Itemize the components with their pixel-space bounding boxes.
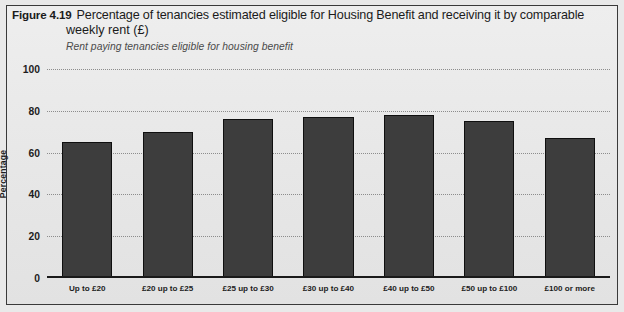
x-axis-tick-label: £100 or more bbox=[545, 284, 595, 293]
figure-number: Figure 4.19 bbox=[12, 8, 72, 21]
bar-group: £40 up to £50 bbox=[369, 69, 449, 278]
bar[interactable] bbox=[464, 121, 514, 278]
figure-title-line-2: weekly rent (£) bbox=[12, 23, 614, 38]
x-axis-tick-label: Up to £20 bbox=[69, 284, 105, 293]
x-axis-tick-label: £20 up to £25 bbox=[142, 284, 193, 293]
chart-bars: Up to £20£20 up to £25£25 up to £30£30 u… bbox=[47, 69, 610, 278]
bar[interactable] bbox=[223, 119, 273, 278]
bar-group: £30 up to £40 bbox=[288, 69, 368, 278]
bar[interactable] bbox=[303, 117, 353, 278]
figure-title-line-1: Figure 4.19Percentage of tenancies estim… bbox=[12, 7, 614, 23]
chart-plot-area: Percentage 020406080100 Up to £20£20 up … bbox=[47, 69, 610, 278]
y-axis-tick-label: 20 bbox=[29, 231, 40, 242]
x-axis-tick-label: £30 up to £40 bbox=[303, 284, 354, 293]
bar-group: £20 up to £25 bbox=[127, 69, 207, 278]
x-axis-tick-label: £25 up to £30 bbox=[222, 284, 273, 293]
y-axis-tick-label: 80 bbox=[29, 105, 40, 116]
bar-group: £50 up to £100 bbox=[449, 69, 529, 278]
bar[interactable] bbox=[143, 132, 193, 278]
bar-group: £100 or more bbox=[530, 69, 610, 278]
x-axis-tick-label: £40 up to £50 bbox=[383, 284, 434, 293]
figure-container: Figure 4.19Percentage of tenancies estim… bbox=[0, 0, 624, 312]
y-axis-tick-label: 60 bbox=[29, 147, 40, 158]
x-axis-line bbox=[47, 276, 610, 278]
bar[interactable] bbox=[384, 115, 434, 278]
figure-subtitle: Rent paying tenancies eligible for housi… bbox=[12, 41, 614, 52]
figure-title-text: Percentage of tenancies estimated eligib… bbox=[77, 8, 585, 22]
x-axis-tick-label: £50 up to £100 bbox=[461, 284, 517, 293]
y-axis-tick-label: 0 bbox=[34, 273, 40, 284]
y-axis-title: Percentage bbox=[0, 149, 8, 197]
bar[interactable] bbox=[545, 138, 595, 278]
y-axis-tick-label: 100 bbox=[23, 64, 40, 75]
bar[interactable] bbox=[62, 142, 112, 278]
bar-group: £25 up to £30 bbox=[208, 69, 288, 278]
y-axis-tick-label: 40 bbox=[29, 189, 40, 200]
bar-group: Up to £20 bbox=[47, 69, 127, 278]
figure-title-block: Figure 4.19Percentage of tenancies estim… bbox=[12, 7, 614, 52]
